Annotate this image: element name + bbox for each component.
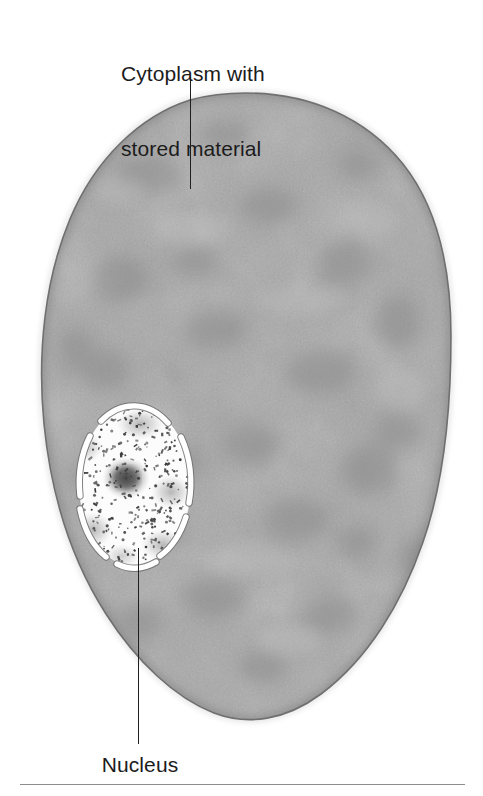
label-nucleus: Nucleus — [0, 752, 280, 777]
label-cytoplasm: Cytoplasm with stored material — [121, 11, 265, 211]
label-cytoplasm-line1: Cytoplasm with — [121, 61, 265, 86]
leader-line-nucleus — [138, 548, 139, 744]
label-cytoplasm-line2: stored material — [121, 136, 265, 161]
cell-diagram-figure: Cytoplasm with stored material Nucleus — [0, 0, 483, 796]
bottom-divider — [20, 784, 465, 785]
